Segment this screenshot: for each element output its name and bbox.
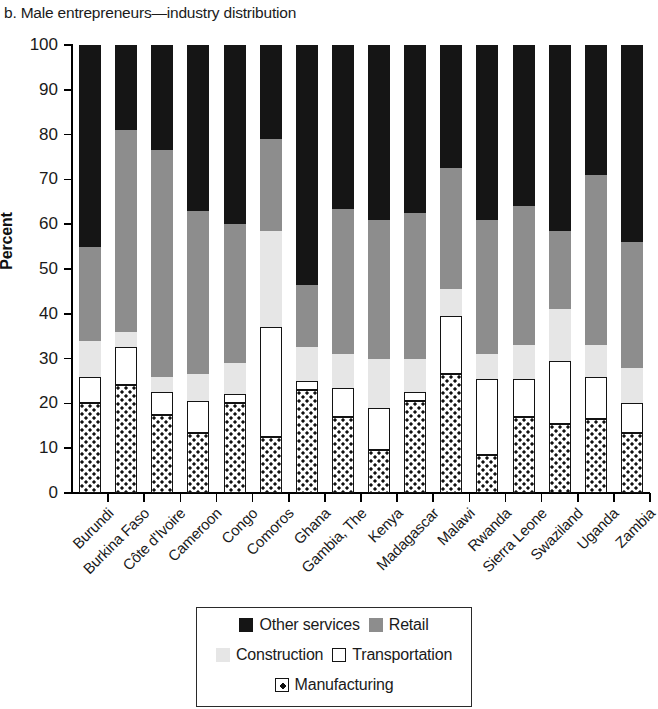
x-axis-tick [252,493,254,502]
bar-segment-construction [79,341,101,377]
bar-segment-manufacturing [404,401,426,493]
x-axis-tick [432,493,434,502]
bar-segment-construction [549,309,571,361]
bar-segment-retail [585,175,607,345]
bar-segment-construction [404,359,426,393]
bar-segment-other-services [260,45,282,139]
bar-segment-retail [621,242,643,367]
bar-segment-manufacturing [79,403,101,493]
bar-segment-retail [187,211,209,375]
bar-segment-manufacturing [476,455,498,493]
bar-segment-other-services [404,45,426,213]
legend-item-other[interactable]: Other services [239,616,359,634]
bar-segment-manufacturing [368,450,390,493]
bar-segment-construction [296,347,318,381]
legend-row: Other servicesRetail [197,616,471,634]
bar-segment-retail [151,150,173,376]
y-axis-tick [64,268,72,270]
legend-item-constr[interactable]: Construction [216,646,323,664]
bar-zambia [621,45,643,493]
legend-row: ConstructionTransportation [197,646,471,664]
bar-burundi [79,45,101,493]
bar-segment-retail [115,130,137,332]
legend-row: Manufacturing [197,676,471,694]
y-axis-tick-label: 60 [14,215,58,232]
x-axis-tick [541,493,543,502]
bar-segment-retail [513,206,535,345]
retail-swatch-icon [369,618,383,632]
bar-ghana [296,45,318,493]
y-axis-tick [64,313,72,315]
bar-segment-manufacturing [621,433,643,493]
x-axis-tick [505,493,507,502]
bar-segment-manufacturing [549,424,571,493]
bar-congo [224,45,246,493]
bar-segment-retail [549,231,571,309]
y-axis-tick [64,89,72,91]
bar-segment-other-services [151,45,173,150]
y-axis-tick [64,447,72,449]
bar-segment-manufacturing [115,385,137,493]
legend-item-manuf[interactable]: Manufacturing [275,676,394,694]
legend-label: Manufacturing [295,676,394,694]
bar-segment-retail [332,209,354,355]
bar-segment-retail [260,139,282,231]
y-axis-tick [64,223,72,225]
x-axis-tick [143,493,145,502]
bar-madagascar [404,45,426,493]
bars-container [72,45,650,493]
bar-swaziland [549,45,571,493]
x-axis-tick [396,493,398,502]
bar-segment-transportation [476,379,498,455]
bar-segment-transportation [549,361,571,424]
bar-segment-construction [513,345,535,379]
bar-segment-manufacturing [440,374,462,493]
x-axis-tick [649,493,651,502]
bar-segment-transportation [440,316,462,374]
legend-item-retail[interactable]: Retail [369,616,429,634]
x-axis-tick [360,493,362,502]
bar-segment-manufacturing [585,419,607,493]
y-axis-tick-label: 30 [14,350,58,367]
transport-swatch-icon [332,648,346,662]
bar-segment-transportation [79,377,101,404]
legend-label: Other services [259,616,359,634]
bar-segment-retail [79,247,101,341]
bar-segment-retail [368,220,390,359]
bar-segment-retail [440,168,462,289]
y-axis-tick-label: 100 [14,36,58,53]
bar-comoros [260,45,282,493]
bar-segment-construction [476,354,498,379]
bar-segment-other-services [513,45,535,206]
bar-segment-other-services [79,45,101,247]
bar-segment-construction [621,368,643,404]
x-axis-tick [577,493,579,502]
bar-segment-transportation [368,408,390,451]
y-axis-tick-label: 90 [14,81,58,98]
bar-segment-construction [368,359,390,408]
legend-item-transport[interactable]: Transportation [332,646,452,664]
bar-segment-construction [151,377,173,393]
bar-segment-other-services [332,45,354,209]
bar-segment-transportation [513,379,535,417]
bar-kenya [368,45,390,493]
bar-segment-manufacturing [187,433,209,493]
y-axis-tick [64,492,72,494]
y-axis-tick [64,358,72,360]
x-axis-tick [107,493,109,502]
y-axis-tick-label: 70 [14,170,58,187]
bar-segment-other-services [440,45,462,168]
bar-segment-retail [404,213,426,359]
x-axis-tick [216,493,218,502]
bar-segment-retail [224,224,246,363]
constr-swatch-icon [216,648,230,662]
y-axis-tick [64,403,72,405]
x-axis-tick [324,493,326,502]
bar-segment-transportation [404,392,426,401]
bar-c-te-d-ivoire [151,45,173,493]
other-swatch-icon [239,618,253,632]
bar-sierra-leone [513,45,535,493]
bar-segment-construction [332,354,354,388]
y-axis-tick-label: 40 [14,305,58,322]
